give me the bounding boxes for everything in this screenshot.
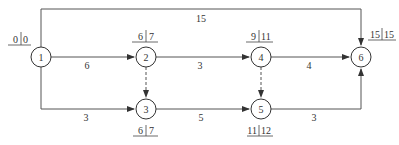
node-1-label: 1 <box>39 52 44 63</box>
edge-3-5: 5 <box>156 109 249 123</box>
edge-2-4-duration: 3 <box>198 60 203 71</box>
node-3: 3 6 7 <box>133 99 158 136</box>
node-5-lst: 12 <box>261 125 271 136</box>
edge-3-5-duration: 5 <box>199 112 204 123</box>
node-3-label: 3 <box>144 104 149 115</box>
node-4-time-params: 9 11 <box>246 30 273 42</box>
node-3-est: 6 <box>138 125 143 136</box>
edge-1-6-duration: 15 <box>196 13 206 24</box>
node-4-label: 4 <box>259 52 264 63</box>
node-1-lst: 0 <box>23 34 28 45</box>
node-3-lst: 7 <box>149 125 154 136</box>
node-3-time-params: 6 7 <box>133 125 158 136</box>
node-1-est: 0 <box>13 34 18 45</box>
edge-1-3: 3 <box>41 67 134 123</box>
node-5-est: 11 <box>247 125 257 136</box>
edge-1-2-duration: 6 <box>85 60 90 71</box>
edge-5-6: 3 <box>271 69 361 123</box>
node-6-label: 6 <box>359 52 364 63</box>
edge-2-4: 3 <box>156 57 249 71</box>
node-1: 1 0 0 <box>8 32 51 67</box>
node-2-lst: 7 <box>149 31 154 42</box>
edge-1-3-duration: 3 <box>84 112 89 123</box>
edge-5-6-duration: 3 <box>312 112 317 123</box>
node-5-label: 5 <box>259 104 264 115</box>
edge-4-6: 4 <box>271 57 349 71</box>
network-diagram: 15 6 3 3 5 4 3 1 <box>0 0 399 145</box>
edge-1-2: 6 <box>51 57 134 71</box>
node-2-time-params: 6 7 <box>132 30 158 42</box>
node-2-est: 6 <box>138 31 143 42</box>
node-1-time-params: 0 0 <box>8 32 31 45</box>
edge-1-6: 15 <box>41 9 361 47</box>
node-5-time-params: 11 12 <box>247 125 273 136</box>
node-4: 4 9 11 <box>246 30 273 67</box>
node-6-lst: 15 <box>384 29 394 40</box>
node-5: 5 11 12 <box>247 99 273 136</box>
node-4-lst: 11 <box>261 31 271 42</box>
node-2: 2 6 7 <box>132 30 158 67</box>
edge-4-6-duration: 4 <box>307 60 312 71</box>
node-2-label: 2 <box>144 52 149 63</box>
node-6-time-params: 15 15 <box>368 28 396 40</box>
node-4-est: 9 <box>251 31 256 42</box>
node-6: 6 15 15 <box>351 28 396 67</box>
node-6-est: 15 <box>370 29 380 40</box>
